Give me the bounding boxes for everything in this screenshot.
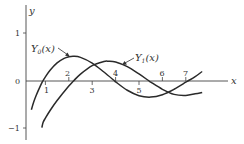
x-axis-label: x [231, 75, 237, 86]
svg-text:Y1(x): Y1(x) [135, 52, 159, 64]
x-tick-4: 4 [113, 69, 118, 78]
x-tick-5: 5 [137, 86, 142, 95]
axes: y x [26, 5, 237, 140]
y1-arrow [125, 58, 134, 63]
bessel-chart: y x 1 0 −1 1 2 3 4 5 6 7 Y0(x) Y1(x) [0, 0, 244, 144]
x-tick-7: 7 [183, 69, 188, 78]
y-tick-neg1: −1 [8, 124, 20, 133]
y1-annotation: Y1(x) [122, 52, 159, 65]
y-axis-label: y [28, 5, 35, 16]
svg-text:Y0(x): Y0(x) [31, 43, 55, 55]
y-ticks: 1 0 −1 [8, 29, 26, 133]
y0-annotation: Y0(x) [31, 43, 70, 57]
x-tick-1: 1 [44, 86, 49, 95]
x-tick-2: 2 [65, 69, 70, 78]
x-tick-6: 6 [160, 69, 165, 78]
x-tick-3: 3 [90, 86, 95, 95]
y-tick-1: 1 [15, 29, 20, 38]
y1-arrowhead-icon [122, 61, 127, 65]
y-tick-0: 0 [15, 77, 20, 86]
